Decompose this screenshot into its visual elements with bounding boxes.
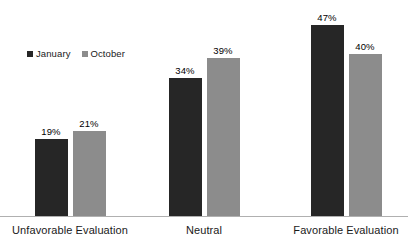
bar-october-2[interactable]	[349, 54, 382, 217]
bar-column: 39%	[207, 0, 240, 217]
x-axis-category-labels: Unfavorable EvaluationNeutralFavorable E…	[0, 224, 408, 244]
bar-october-0[interactable]	[73, 131, 106, 217]
bar-column: 19%	[35, 0, 68, 217]
bar-january-0[interactable]	[35, 139, 68, 217]
bar-column: 47%	[311, 0, 344, 217]
bar-value-label: 47%	[317, 12, 336, 23]
bar-october-1[interactable]	[207, 58, 240, 217]
bar-group: 34%39%	[169, 0, 240, 217]
bar-column: 40%	[349, 0, 382, 217]
category-label: Favorable Evaluation	[293, 224, 398, 236]
bar-value-label: 34%	[175, 65, 194, 76]
bar-chart: January October 19%21%34%39%47%40% Unfav…	[0, 0, 408, 247]
bar-value-label: 40%	[355, 41, 374, 52]
x-axis-line	[0, 216, 408, 217]
plot-area: 19%21%34%39%47%40%	[0, 0, 408, 217]
bar-value-label: 21%	[79, 118, 98, 129]
bar-group: 47%40%	[311, 0, 382, 217]
category-label: Unfavorable Evaluation	[12, 224, 128, 236]
category-label: Neutral	[186, 224, 222, 236]
bar-value-label: 39%	[213, 45, 232, 56]
bar-column: 21%	[73, 0, 106, 217]
bar-january-1[interactable]	[169, 78, 202, 217]
bar-column: 34%	[169, 0, 202, 217]
bar-group: 19%21%	[35, 0, 106, 217]
bar-value-label: 19%	[41, 126, 60, 137]
bar-january-2[interactable]	[311, 25, 344, 217]
